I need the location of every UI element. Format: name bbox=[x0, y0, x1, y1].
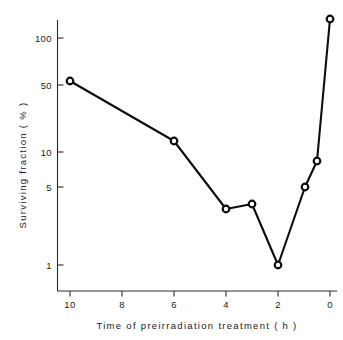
x-axis-label: Time of preirradiation treatment ( h ) bbox=[96, 320, 297, 331]
y-tick-label-5: 5 bbox=[46, 182, 52, 193]
chart-plot-area: 100 50 10 5 1 10 8 6 4 2 0 bbox=[0, 0, 343, 340]
data-series-line bbox=[70, 19, 330, 265]
y-tick-labels: 100 50 10 5 1 bbox=[35, 33, 52, 271]
chart-figure: 100 50 10 5 1 10 8 6 4 2 0 bbox=[0, 0, 343, 340]
data-point bbox=[171, 138, 178, 145]
y-tick-label-100: 100 bbox=[35, 33, 52, 44]
y-tick-label-1: 1 bbox=[46, 260, 52, 271]
y-axis-label: Surviving fraction ( % ) bbox=[17, 102, 28, 229]
data-point bbox=[223, 206, 230, 213]
y-tick-label-50: 50 bbox=[41, 80, 52, 91]
data-point bbox=[275, 262, 282, 269]
x-tick-labels: 10 8 6 4 2 0 bbox=[64, 299, 333, 310]
data-point bbox=[302, 184, 309, 191]
x-tick-label-4: 4 bbox=[223, 299, 229, 310]
data-series bbox=[67, 16, 334, 269]
y-tick-label-10: 10 bbox=[41, 147, 52, 158]
x-tick-label-10: 10 bbox=[64, 299, 75, 310]
data-point bbox=[67, 78, 74, 85]
data-point bbox=[314, 158, 321, 165]
y-tick-marks bbox=[58, 38, 64, 265]
x-tick-marks bbox=[70, 291, 330, 297]
axis-group bbox=[58, 20, 338, 291]
x-tick-label-2: 2 bbox=[275, 299, 281, 310]
x-tick-label-8: 8 bbox=[119, 299, 125, 310]
x-tick-label-0: 0 bbox=[327, 299, 333, 310]
data-point bbox=[249, 201, 256, 208]
x-tick-label-6: 6 bbox=[171, 299, 177, 310]
data-point bbox=[327, 16, 334, 23]
